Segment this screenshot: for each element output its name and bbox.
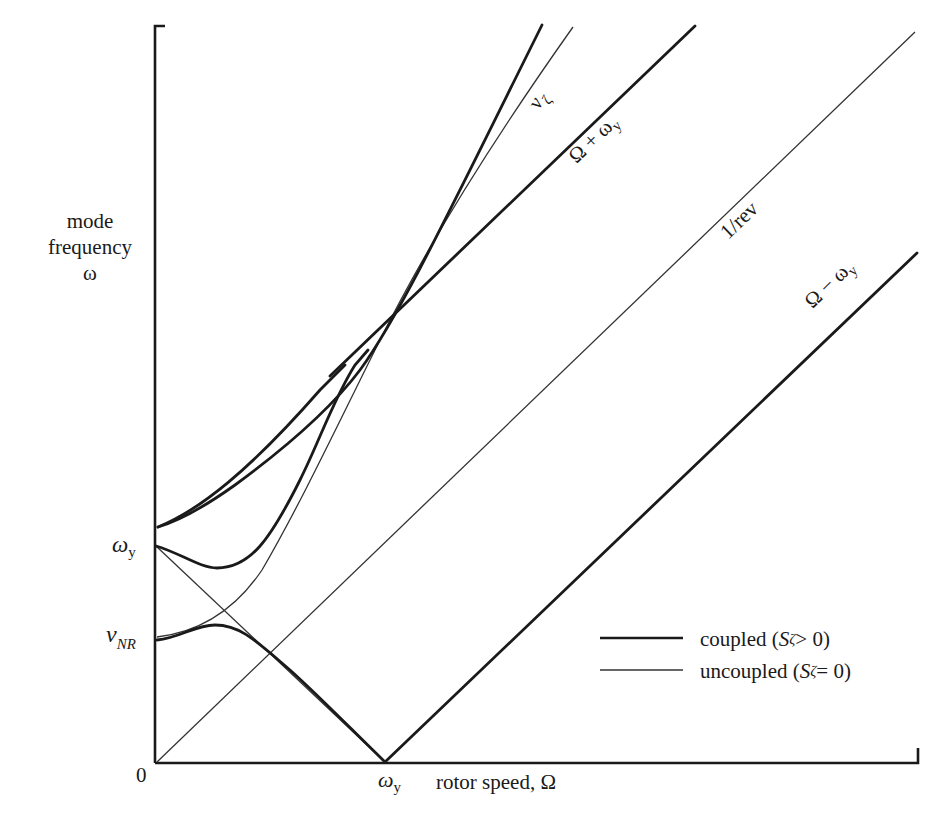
x-tick-omega-y: ωy	[378, 769, 401, 795]
y-tick-nu-nr-sub: NR	[117, 636, 136, 652]
x-tick-omega-y-sub: y	[394, 779, 402, 795]
legend-coupled: coupled (Sζ > 0)	[700, 627, 830, 652]
x-axis-label: rotor speed, Ω	[436, 772, 556, 793]
coupled-lower-curve	[157, 625, 385, 762]
legend-uncoupled-sym: S	[800, 659, 811, 684]
coupled-middle-curve	[156, 350, 368, 568]
coupled-upper-curve	[158, 25, 542, 527]
omega-plus-omega-y-line	[330, 26, 695, 376]
y-tick-omega-y-symbol: ω	[112, 532, 128, 557]
legend-coupled-sym: S	[779, 627, 790, 652]
y-tick-omega-y: ωy	[112, 533, 136, 560]
nu-zeta-line	[157, 27, 573, 637]
y-tick-omega-y-sub: y	[128, 544, 136, 560]
y-tick-zero-label: 0	[136, 763, 147, 787]
mode-frequency-diagram	[0, 0, 943, 822]
x-axis	[155, 748, 918, 763]
y-axis-label-line1: mode	[40, 208, 140, 234]
legend-coupled-label: coupled (	[700, 627, 779, 652]
y-tick-zero: 0	[136, 765, 147, 786]
y-axis-label-line3: ω	[40, 260, 140, 286]
y-axis-label-line2: frequency	[40, 234, 140, 260]
y-axis-label: mode frequency ω	[40, 208, 140, 286]
legend-uncoupled: uncoupled (Sζ = 0)	[700, 659, 851, 684]
y-axis	[155, 26, 165, 763]
legend-coupled-rel: > 0)	[795, 627, 830, 652]
x-tick-omega-y-symbol: ω	[378, 767, 394, 792]
legend-uncoupled-label: uncoupled (	[700, 659, 800, 684]
legend-uncoupled-rel: = 0)	[816, 659, 851, 684]
legend-swatches	[600, 638, 683, 670]
y-tick-nu-nr: νNR	[106, 622, 136, 652]
omega-minus-omega-y-line	[385, 253, 917, 762]
y-tick-nu-nr-symbol: ν	[106, 621, 117, 647]
